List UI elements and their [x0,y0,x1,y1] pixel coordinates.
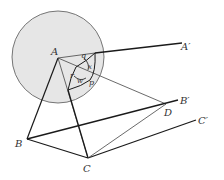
line-b-b-prime [27,100,178,139]
label-a-prime: A′ [180,41,191,52]
label-b: B [14,138,22,149]
geometry-diagram: A A′ B B′ C C′ D q x r w p [0,0,224,180]
label-c-prime: C′ [198,115,209,126]
edge-c-d [88,104,166,158]
label-angle-w: w [77,77,83,85]
label-angle-p: p [89,78,94,87]
label-d: D [163,107,172,118]
label-angle-x: x [88,63,92,71]
line-a-a-prime [95,43,182,53]
label-a: A [50,46,58,57]
line-c-c-prime [88,120,196,158]
edge-b-c [27,139,88,158]
label-c: C [83,163,91,174]
label-b-prime: B′ [179,95,190,106]
label-angle-q: q [81,51,86,60]
